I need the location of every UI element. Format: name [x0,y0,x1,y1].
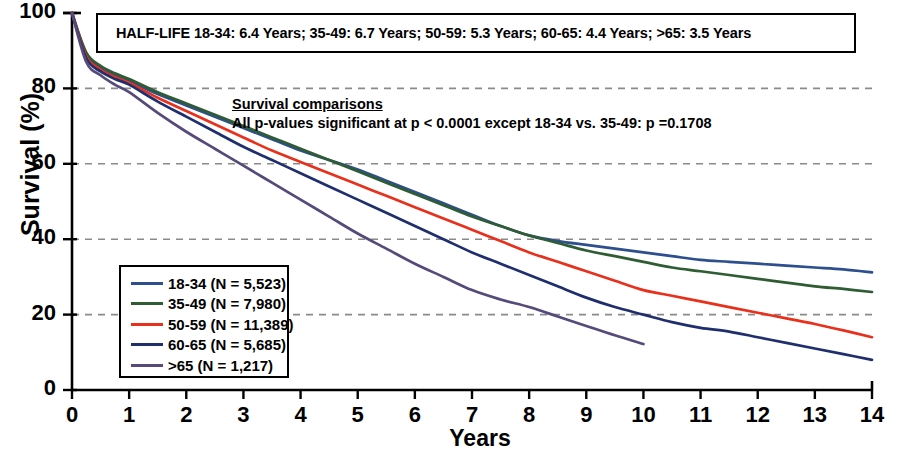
x-axis-title: Years [0,425,898,452]
x-tick-label: 6 [395,402,435,428]
survival-comparisons-title: Survival comparisons [232,96,712,112]
legend-label: >65 (N = 1,217) [168,357,273,374]
x-tick-label: 8 [509,402,549,428]
survival-chart: Survival (%) Years HALF-LIFE 18-34: 6.4 … [0,0,898,457]
legend-color-swatch [131,282,163,285]
legend-color-swatch [131,302,163,305]
legend-color-swatch [131,323,163,326]
y-tick-label: 20 [0,300,56,326]
x-tick-label: 13 [795,402,835,428]
y-tick-label: 100 [0,0,56,24]
y-tick-label: 60 [0,149,56,175]
legend: 18-34 (N = 5,523)35-49 (N = 7,980)50-59 … [119,265,289,378]
x-tick-label: 5 [338,402,378,428]
x-tick-label: 7 [452,402,492,428]
legend-item: 35-49 (N = 7,980) [121,294,287,315]
half-life-box: HALF-LIFE 18-34: 6.4 Years; 35-49: 6.7 Y… [96,13,856,53]
series-line [72,13,872,292]
legend-item: 50-59 (N = 11,389) [121,314,287,335]
x-tick-label: 3 [223,402,263,428]
legend-color-swatch [131,364,163,367]
x-tick-label: 0 [52,402,92,428]
x-tick-label: 10 [623,402,663,428]
legend-label: 18-34 (N = 5,523) [168,275,286,292]
x-tick-label: 4 [281,402,321,428]
legend-item: 60-65 (N = 5,685) [121,335,287,356]
legend-item: >65 (N = 1,217) [121,355,287,376]
legend-label: 60-65 (N = 5,685) [168,336,286,353]
x-tick-label: 9 [566,402,606,428]
y-tick-label: 80 [0,73,56,99]
x-tick-label: 1 [109,402,149,428]
survival-comparisons-body: All p-values significant at p < 0.0001 e… [232,115,712,131]
x-tick-label: 14 [852,402,892,428]
legend-item: 18-34 (N = 5,523) [121,273,287,294]
x-tick-label: 2 [166,402,206,428]
legend-color-swatch [131,343,163,346]
x-tick-label: 12 [738,402,778,428]
plot-area [0,0,898,457]
legend-label: 50-59 (N = 11,389) [168,316,294,333]
half-life-text: HALF-LIFE 18-34: 6.4 Years; 35-49: 6.7 Y… [98,25,751,41]
legend-label: 35-49 (N = 7,980) [168,295,286,312]
y-tick-label: 0 [0,375,56,401]
x-tick-label: 11 [681,402,721,428]
y-tick-label: 40 [0,224,56,250]
survival-comparisons: Survival comparisons All p-values signif… [232,96,712,131]
